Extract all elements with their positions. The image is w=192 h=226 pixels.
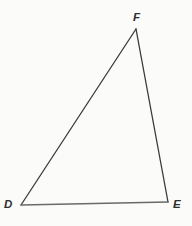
vertex-label-f: F bbox=[133, 12, 140, 24]
geometry-figure-canvas: F D E bbox=[0, 0, 192, 226]
vertex-label-d: D bbox=[4, 199, 12, 211]
edge-FE bbox=[136, 29, 168, 202]
vertex-label-e: E bbox=[173, 199, 181, 211]
edge-DE bbox=[21, 202, 168, 205]
triangle-svg bbox=[0, 0, 192, 226]
edge-DF bbox=[21, 29, 136, 205]
